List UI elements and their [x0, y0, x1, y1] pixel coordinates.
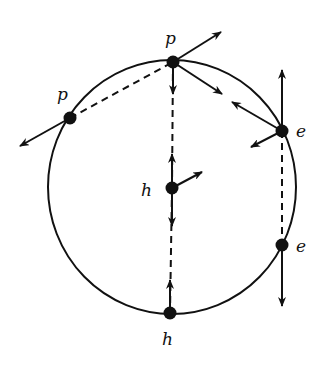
label-h-center: h [141, 180, 152, 200]
arrow-p-left-outward [20, 118, 70, 146]
diagram-canvas: p p h h e e [0, 0, 327, 365]
label-e-lower: e [296, 236, 306, 256]
node-h-center [166, 182, 179, 195]
node-p-top [167, 56, 180, 69]
node-e-lower [276, 239, 289, 252]
arrow-p-top-outward [173, 32, 221, 62]
label-p-left: p [57, 84, 68, 104]
label-h-bottom: h [162, 329, 173, 349]
label-e-upper: e [296, 121, 306, 141]
node-e-upper [276, 125, 289, 138]
node-h-bottom [164, 307, 177, 320]
node-p-left [64, 112, 77, 125]
label-p-top: p [165, 28, 176, 48]
